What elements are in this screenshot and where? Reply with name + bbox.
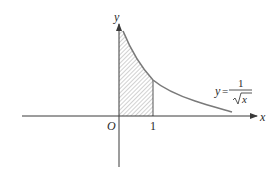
x-axis-label: x (259, 110, 266, 124)
function-label-lhs: y (214, 84, 221, 98)
origin-label: O (107, 119, 116, 133)
y-axis-label: y (113, 10, 120, 24)
function-label-equals: = (222, 85, 228, 97)
function-label: y = 1 x (214, 77, 252, 105)
function-label-radicand: x (241, 93, 247, 105)
function-graph: y x O 1 y = 1 x (0, 0, 280, 180)
function-label-numerator: 1 (238, 77, 244, 89)
tick-label-1: 1 (150, 119, 156, 133)
